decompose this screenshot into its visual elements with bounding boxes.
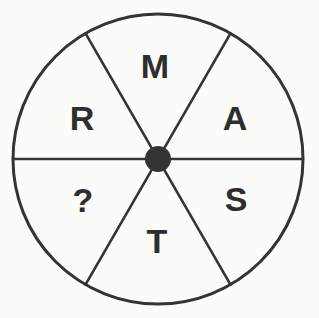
sector-label-upper-left: R bbox=[70, 99, 95, 137]
sector-label-lower-right: S bbox=[225, 180, 248, 218]
sector-label-lower-left: ? bbox=[73, 181, 94, 219]
wheel-svg-canvas: M A S T ? R bbox=[0, 0, 319, 318]
wheel-diagram: M A S T ? R bbox=[0, 0, 319, 318]
wheel-center-hub bbox=[145, 146, 171, 172]
sector-label-top: M bbox=[141, 47, 169, 85]
sector-label-bottom: T bbox=[147, 222, 168, 260]
sector-label-upper-right: A bbox=[223, 99, 248, 137]
